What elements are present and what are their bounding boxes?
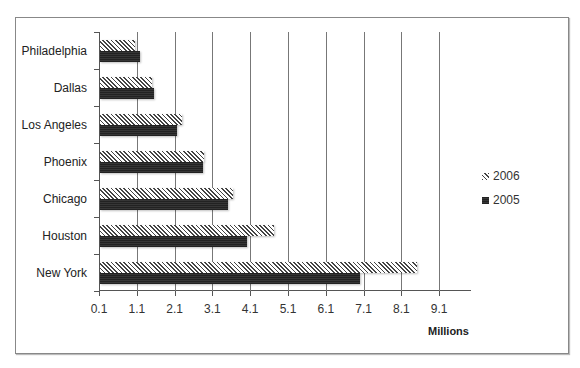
x-tick <box>212 291 213 296</box>
x-tick <box>137 291 138 296</box>
bar-2006 <box>100 77 152 88</box>
bar-2006 <box>100 262 417 273</box>
x-axis-title: Millions <box>428 325 469 337</box>
x-tick-label: 6.1 <box>317 302 334 316</box>
category-label: Philadelphia <box>22 44 87 58</box>
bar-2005 <box>100 51 140 62</box>
y-tick <box>94 32 99 33</box>
x-tick-label: 8.1 <box>393 302 410 316</box>
x-tick <box>326 291 327 296</box>
x-tick <box>401 291 402 296</box>
x-tick <box>288 291 289 296</box>
y-tick <box>94 291 99 292</box>
y-tick <box>94 106 99 107</box>
x-tick <box>439 291 440 296</box>
y-tick <box>94 180 99 181</box>
x-tick-label: 2.1 <box>166 302 183 316</box>
bar-2006 <box>100 114 182 125</box>
legend-item-2005: 2005 <box>482 188 520 212</box>
gridline <box>439 32 440 291</box>
clipped-caption-text <box>0 0 300 3</box>
category-label: Chicago <box>43 192 87 206</box>
hatch-swatch-icon <box>482 173 489 180</box>
legend: 2006 2005 <box>482 164 520 212</box>
bar-2005 <box>100 125 177 136</box>
gridline <box>250 32 251 291</box>
x-tick <box>99 291 100 296</box>
y-tick <box>94 143 99 144</box>
y-tick <box>94 254 99 255</box>
plot-area <box>99 32 471 291</box>
x-tick-label: 5.1 <box>280 302 297 316</box>
category-label: Dallas <box>54 81 87 95</box>
bar-2005 <box>100 273 360 284</box>
x-tick-label: 1.1 <box>128 302 145 316</box>
legend-label: 2006 <box>493 169 520 183</box>
bar-2006 <box>100 151 204 162</box>
bar-2005 <box>100 88 154 99</box>
x-tick <box>250 291 251 296</box>
legend-label: 2005 <box>493 193 520 207</box>
dotted-swatch-icon <box>482 197 489 204</box>
gridline <box>288 32 289 291</box>
bar-2006 <box>100 225 274 236</box>
gridline <box>364 32 365 291</box>
bar-2006 <box>100 40 135 51</box>
y-tick <box>94 69 99 70</box>
bar-2005 <box>100 199 228 210</box>
gridline <box>212 32 213 291</box>
bar-2005 <box>100 236 247 247</box>
gridline <box>326 32 327 291</box>
x-tick-label: 3.1 <box>204 302 221 316</box>
x-axis-line <box>99 290 471 291</box>
bar-2006 <box>100 188 233 199</box>
gridline <box>401 32 402 291</box>
category-label: Houston <box>42 229 87 243</box>
bar-2005 <box>100 162 203 173</box>
y-tick <box>94 217 99 218</box>
x-tick-label: 4.1 <box>242 302 259 316</box>
x-tick <box>175 291 176 296</box>
category-label: New York <box>36 266 87 280</box>
x-tick <box>364 291 365 296</box>
x-tick-label: 9.1 <box>431 302 448 316</box>
category-label: Los Angeles <box>22 118 87 132</box>
category-label: Phoenix <box>44 155 87 169</box>
legend-item-2006: 2006 <box>482 164 520 188</box>
x-tick-label: 0.1 <box>91 302 108 316</box>
x-tick-label: 7.1 <box>355 302 372 316</box>
